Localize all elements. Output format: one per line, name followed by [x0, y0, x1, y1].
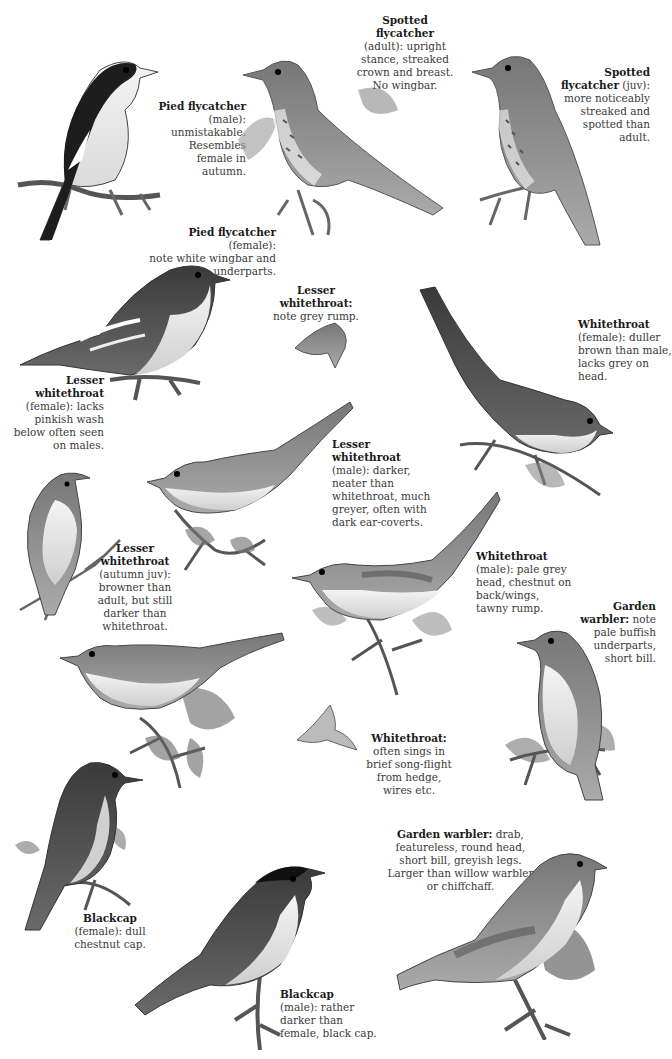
caption-lesser-whitethroat-juv: Lesser whitethroat (autumn juv): browner… — [86, 542, 184, 633]
garden-warbler-main-illustration — [395, 840, 615, 1040]
garden-warbler-perched-illustration — [505, 625, 620, 805]
lesser-whitethroat-rump-illustration — [290, 318, 360, 373]
caption-spotted-flycatcher-adult: Spotted flycatcher (adult): upright stan… — [350, 14, 460, 92]
caption-whitethroat-female: Whitethroat (female): duller brown than … — [578, 318, 672, 383]
caption-whitethroat-song-flight: Whitethroat: often sings in brief song-f… — [362, 732, 456, 797]
caption-spotted-flycatcher-juv: Spotted flycatcher (juv): more noticeabl… — [550, 66, 650, 144]
pied-flycatcher-male-illustration — [10, 50, 170, 245]
whitethroat-male-illustration — [292, 490, 502, 700]
caption-lesser-whitethroat-female: Lesser whitethroat (female): lacks pinki… — [0, 374, 104, 452]
caption-blackcap-male: Blackcap (male): rather darker than fema… — [280, 988, 380, 1040]
blackcap-female-illustration — [15, 755, 145, 935]
whitethroat-song-flight-illustration — [295, 695, 360, 755]
caption-pied-flycatcher-male: Pied flycatcher (male): unmistakable. Re… — [150, 100, 246, 178]
